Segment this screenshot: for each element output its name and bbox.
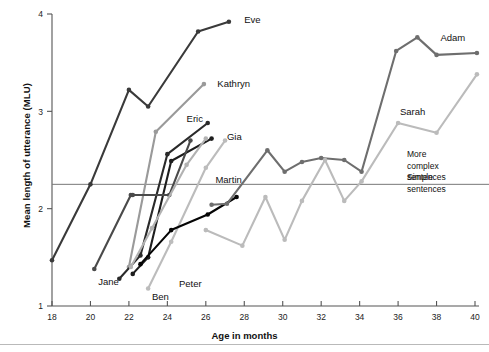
data-point [475,72,480,77]
series-label-adam: Adam [440,32,465,43]
data-point [265,148,270,153]
x-tick-label: 26 [201,312,211,322]
data-point [154,129,159,134]
series-label-martin: Martin [215,174,241,185]
data-point [359,169,364,174]
data-point [204,136,209,141]
chart-canvas: 1234182022242628303234363840 EveKathrynE… [0,0,489,352]
figure-footer-rule [0,344,489,345]
series-label-ben: Ben [152,291,169,302]
data-point [415,35,420,40]
data-point [396,121,401,126]
x-tick-label: 18 [47,312,57,322]
more-complex-sentences-label: complex [407,161,439,171]
data-point [434,130,439,135]
x-tick-label: 34 [355,312,365,322]
simple-sentences-label: Simple [407,172,433,182]
data-point [234,195,239,200]
series-label-gia: Gia [227,131,243,142]
x-tick-label: 36 [393,312,403,322]
data-point [225,202,230,207]
data-point [130,272,135,277]
series-label-kathryn: Kathryn [217,78,250,89]
data-point [169,159,174,164]
series-line-eve [52,22,229,260]
series-label-eric: Eric [187,113,204,124]
data-point [129,265,134,270]
data-point [165,152,170,157]
x-tick-label: 24 [163,312,173,322]
data-point [130,193,135,198]
data-point [209,202,214,207]
data-point [240,243,245,248]
data-point [282,238,287,243]
data-point [169,228,174,233]
data-point [88,182,93,187]
x-tick-label: 28 [240,312,250,322]
y-tick-label: 1 [38,301,43,311]
data-point [263,195,268,200]
x-tick-label: 38 [432,312,442,322]
data-point [394,49,399,54]
data-point [342,199,347,204]
series-label-sarah: Sarah [400,106,425,117]
data-point [205,121,210,126]
more-complex-sentences-label: More [407,149,427,159]
x-tick-label: 30 [278,312,288,322]
figure-panel: Mean length of utterance (MLU) Age in mo… [0,0,489,352]
data-point [475,51,480,56]
data-point [342,158,347,163]
data-point [138,262,143,267]
simple-sentences-label: sentences [407,184,446,194]
data-point [204,165,209,170]
data-point [50,258,55,263]
y-tick-label: 3 [38,107,43,117]
series-label-eve: Eve [244,14,260,25]
data-point [188,138,193,143]
data-point [146,286,151,291]
y-tick-label: 2 [38,204,43,214]
y-tick-label: 4 [38,9,43,19]
data-point [169,239,174,244]
x-tick-label: 22 [124,312,134,322]
x-tick-label: 20 [86,312,96,322]
data-point [323,158,328,163]
series-label-jane: Jane [98,276,119,287]
data-point [184,163,189,168]
data-point [205,212,210,217]
data-point [204,228,209,233]
x-tick-label: 40 [470,312,480,322]
data-point [146,104,151,109]
data-point [209,136,214,141]
data-point [227,19,232,24]
x-tick-label: 32 [316,312,326,322]
data-point [434,53,439,58]
data-point [92,267,97,272]
data-point [150,226,155,231]
data-point [300,160,305,165]
series-line-kathryn [129,84,204,267]
data-point [127,88,132,93]
data-point [202,82,207,87]
data-point [359,179,364,184]
data-point [196,29,201,34]
zone-annotation-layer: MorecomplexsentencesSimplesentences [407,149,446,194]
series-label-peter: Peter [179,278,202,289]
data-point [300,199,305,204]
data-point [282,169,287,174]
